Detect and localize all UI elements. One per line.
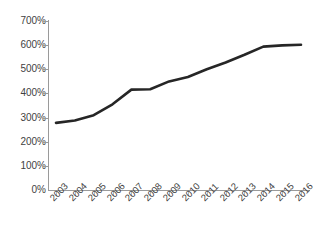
series-line: [56, 45, 301, 123]
data-series-layer: [0, 0, 318, 237]
percentage-growth-line-chart: 0%100%200%300%400%500%600%700% 200320042…: [0, 0, 318, 237]
plot-area: 0%100%200%300%400%500%600%700% 200320042…: [0, 0, 318, 237]
